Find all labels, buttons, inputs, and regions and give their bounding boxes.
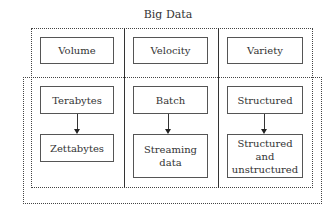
streaming-data-box: Streaming data [133,134,208,178]
batch-box: Batch [133,86,208,114]
velocity-box: Velocity [133,37,208,64]
terabytes-box: Terabytes [40,86,114,114]
column-divider-1 [124,28,125,188]
structured-and-unstructured-box: Structured and unstructured [227,134,303,178]
velocity-arrow [168,114,169,129]
volume-box: Volume [40,37,114,64]
volume-arrow [77,114,78,129]
structured-box: Structured [227,86,303,114]
variety-box: Variety [227,37,303,64]
diagram-title: Big Data [0,8,336,21]
column-divider-2 [218,28,219,188]
zettabytes-box: Zettabytes [40,134,114,162]
variety-arrow [264,114,265,129]
